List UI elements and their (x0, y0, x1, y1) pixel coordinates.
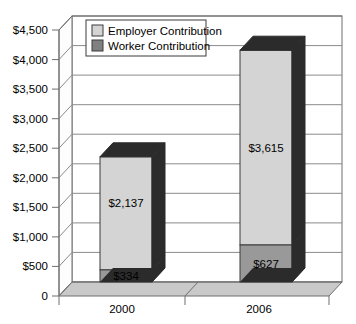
bar-value-label-employer-2006: $3,615 (248, 142, 283, 154)
bar-group-2000[interactable]: $2,137 $334 (100, 143, 165, 282)
category-label-2000: 2000 (109, 303, 135, 315)
legend-swatch-employer (92, 25, 103, 36)
bar-group-2006[interactable]: $3,615 $627 (240, 36, 305, 282)
bar-value-label-worker-2006: $627 (253, 258, 279, 270)
value-axis-label: $2,500 (13, 142, 48, 154)
bar-segment-employer-2000-side (152, 143, 165, 270)
value-axis-ticks (52, 30, 59, 296)
value-axis-label: 0 (42, 290, 48, 302)
legend-label-worker: Worker Contribution (108, 40, 210, 52)
value-axis-label: $4,000 (13, 54, 48, 66)
value-axis-label: $1,500 (13, 201, 48, 213)
legend: Employer Contribution Worker Contributio… (86, 20, 222, 56)
bar-segment-employer-2000-face[interactable] (100, 157, 152, 270)
value-axis-labels: $4,500 $4,000 $3,500 $3,000 $2,500 $2,00… (13, 24, 48, 302)
value-axis-label: $500 (22, 260, 48, 272)
chart-container: $4,500 $4,000 $3,500 $3,000 $2,500 $2,00… (0, 0, 356, 324)
value-axis-label: $3,500 (13, 83, 48, 95)
legend-swatch-worker (92, 40, 103, 51)
category-axis-labels: 2000 2006 (109, 303, 272, 315)
bar-chart-3d: $4,500 $4,000 $3,500 $3,000 $2,500 $2,00… (0, 0, 356, 324)
legend-label-employer: Employer Contribution (108, 25, 222, 37)
category-label-2006: 2006 (246, 303, 272, 315)
floor (59, 282, 342, 296)
value-axis-label: $2,000 (13, 172, 48, 184)
bar-value-label-worker-2000: $334 (113, 270, 139, 282)
value-axis-label: $4,500 (13, 24, 48, 36)
value-axis-label: $1,000 (13, 231, 48, 243)
bar-value-label-employer-2000: $2,137 (108, 197, 143, 209)
value-axis-label: $3,000 (13, 113, 48, 125)
bar-segment-employer-2006-side (292, 36, 305, 245)
